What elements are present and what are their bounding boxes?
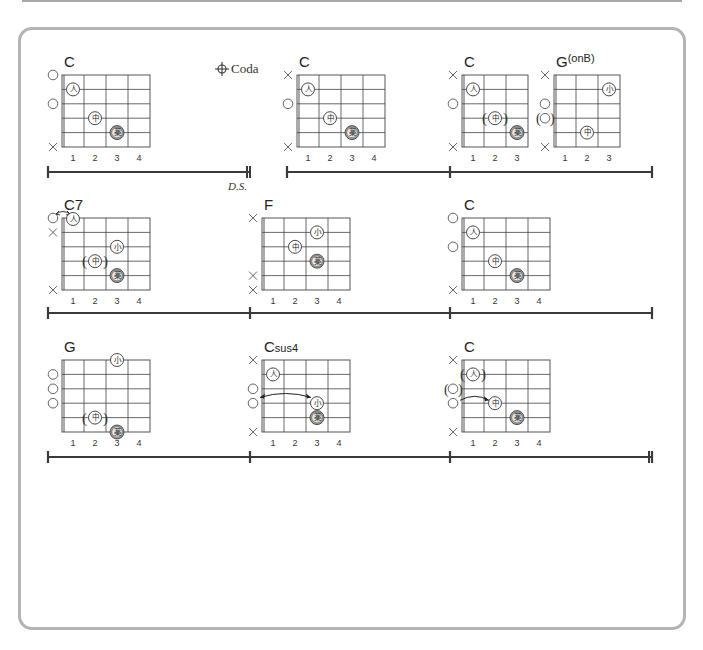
svg-text:(: ( bbox=[444, 382, 449, 398]
muted-string-icon bbox=[541, 71, 549, 79]
open-string-icon bbox=[448, 99, 458, 109]
svg-text:): ) bbox=[503, 110, 508, 127]
chord-diagram-c: C1234()人()中薬 bbox=[444, 338, 550, 448]
finger-marker: 中() bbox=[82, 410, 108, 427]
chord-diagram-c: C1234人中薬 bbox=[283, 53, 385, 163]
chord-name: C7 bbox=[64, 196, 83, 213]
open-string-icon bbox=[48, 99, 58, 109]
chord-suffix: (onB) bbox=[568, 52, 595, 64]
open-string-icon bbox=[448, 384, 458, 394]
finger-label: 薬 bbox=[514, 270, 522, 280]
finger-label: 中 bbox=[92, 256, 99, 266]
muted-string-icon bbox=[284, 143, 292, 151]
open-string-icon bbox=[448, 398, 458, 408]
fret-number: 4 bbox=[371, 153, 376, 163]
finger-marker: 人() bbox=[460, 366, 486, 383]
finger-label: 人 bbox=[70, 85, 78, 94]
finger-label: 中 bbox=[92, 412, 99, 422]
finger-marker: 中 bbox=[289, 240, 302, 253]
muted-string-icon bbox=[49, 286, 57, 294]
finger-marker: 薬 bbox=[110, 126, 124, 140]
finger-label: 薬 bbox=[314, 412, 322, 422]
finger-label: 小 bbox=[314, 228, 322, 237]
finger-marker: 薬 bbox=[110, 269, 124, 283]
fret-number: 1 bbox=[470, 296, 475, 306]
chord-diagram-c7: C71234人小中()薬 bbox=[48, 196, 150, 306]
finger-marker: 人 bbox=[467, 83, 480, 96]
finger-label: 薬 bbox=[114, 270, 122, 280]
fret-number: 2 bbox=[92, 438, 97, 448]
finger-marker: 中 bbox=[89, 112, 102, 125]
fret-number: 2 bbox=[292, 296, 297, 306]
fret-number: 1 bbox=[470, 153, 475, 163]
fret-number: 1 bbox=[562, 153, 567, 163]
coda-marker: Coda bbox=[215, 61, 259, 76]
fret-number: 1 bbox=[305, 153, 310, 163]
chord-diagram-g-onb: G(onB)123()小中 bbox=[536, 52, 620, 163]
open-string-icon bbox=[540, 113, 550, 123]
chord-name: C bbox=[464, 196, 475, 213]
finger-label: 中 bbox=[327, 113, 334, 123]
finger-marker: 小 bbox=[311, 397, 324, 410]
muted-string-icon bbox=[249, 356, 257, 364]
open-string-icon bbox=[48, 398, 58, 408]
finger-label: 薬 bbox=[514, 127, 522, 137]
open-string-icon bbox=[48, 384, 58, 394]
chord-name: C bbox=[464, 338, 475, 355]
finger-marker: 小 bbox=[603, 83, 616, 96]
fret-number: 2 bbox=[292, 438, 297, 448]
finger-marker: 薬 bbox=[510, 126, 524, 140]
finger-label: 人 bbox=[470, 370, 478, 379]
fret-number: 3 bbox=[314, 438, 319, 448]
fret-number: 2 bbox=[492, 296, 497, 306]
fret-number: 3 bbox=[514, 296, 519, 306]
fret-number: 2 bbox=[92, 153, 97, 163]
muted-string-icon bbox=[249, 272, 257, 280]
finger-marker: 人 bbox=[67, 213, 80, 226]
svg-text:): ) bbox=[550, 111, 555, 127]
chord-name: F bbox=[264, 196, 273, 213]
muted-string-icon bbox=[249, 286, 257, 294]
muted-string-icon bbox=[249, 428, 257, 436]
finger-label: 中 bbox=[492, 113, 499, 123]
open-string-icon bbox=[248, 384, 258, 394]
svg-text:): ) bbox=[481, 366, 486, 383]
finger-label: 人 bbox=[70, 215, 78, 224]
svg-text:): ) bbox=[458, 382, 463, 398]
finger-label: 薬 bbox=[314, 256, 322, 266]
finger-marker: 薬 bbox=[510, 411, 524, 425]
measure-line-row-3 bbox=[48, 451, 652, 463]
finger-marker: 人 bbox=[302, 83, 315, 96]
fret-number: 2 bbox=[492, 153, 497, 163]
muted-string-icon bbox=[449, 286, 457, 294]
chord-diagram-f: F1234小中薬 bbox=[249, 196, 350, 306]
fret-number: 3 bbox=[114, 296, 119, 306]
muted-string-icon bbox=[249, 214, 257, 222]
open-string-icon bbox=[48, 213, 58, 223]
fret-number: 1 bbox=[70, 438, 75, 448]
finger-marker: 中() bbox=[482, 110, 508, 127]
finger-marker: 小 bbox=[311, 226, 324, 239]
muted-string-icon bbox=[541, 143, 549, 151]
finger-marker: 中 bbox=[581, 126, 594, 139]
svg-text:(: ( bbox=[460, 366, 465, 383]
finger-marker: 薬 bbox=[345, 126, 359, 140]
muted-string-icon bbox=[449, 356, 457, 364]
muted-string-icon bbox=[49, 228, 57, 236]
finger-marker: 薬 bbox=[510, 269, 524, 283]
chord-sheet: C1234人中薬C1234人中薬C123人中()薬G(onB)123()小中C7… bbox=[0, 0, 703, 650]
fret-number: 4 bbox=[536, 438, 541, 448]
svg-text:): ) bbox=[103, 253, 108, 270]
open-string-icon bbox=[283, 99, 293, 109]
open-string-icon bbox=[448, 213, 458, 223]
finger-label: 薬 bbox=[349, 127, 357, 137]
fret-number: 3 bbox=[514, 438, 519, 448]
open-string-icon bbox=[48, 70, 58, 80]
fret-number: 2 bbox=[584, 153, 589, 163]
finger-label: 中 bbox=[492, 256, 499, 266]
fret-number: 2 bbox=[92, 296, 97, 306]
chord-name: C bbox=[299, 53, 310, 70]
finger-marker: 中 bbox=[489, 397, 502, 410]
fret-number: 1 bbox=[270, 296, 275, 306]
finger-label: 人 bbox=[305, 85, 313, 94]
